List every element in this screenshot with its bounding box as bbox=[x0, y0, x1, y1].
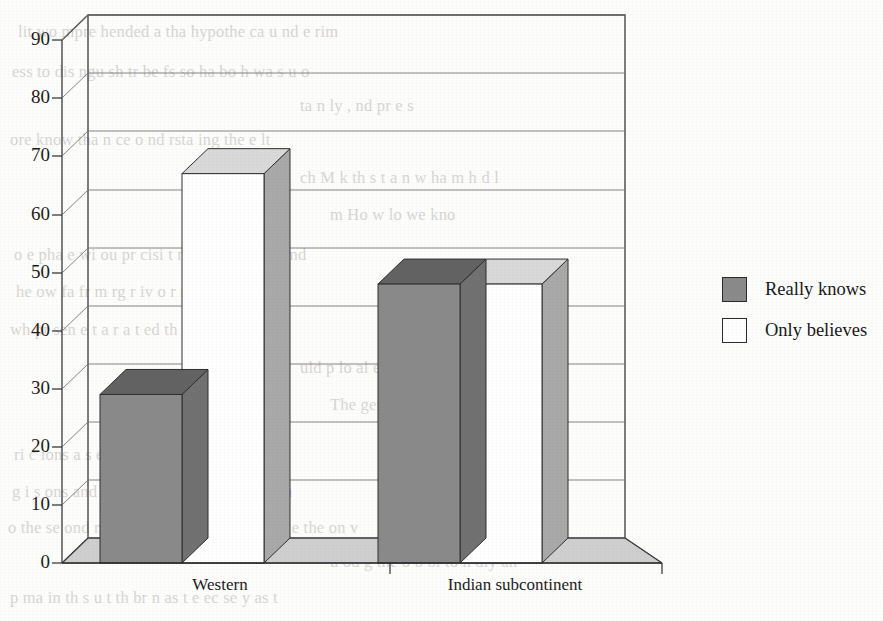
chart-legend: Really knows Only believes bbox=[722, 277, 867, 359]
page: lit wo mpre hended a tha hypothe ca u nd… bbox=[0, 0, 883, 621]
bar-western-really-knows-side-face bbox=[182, 369, 208, 563]
ytick-label-70: 70 bbox=[6, 144, 50, 166]
legend-label-really-knows: Really knows bbox=[765, 279, 866, 300]
legend-swatch-really-knows bbox=[722, 277, 747, 302]
xtick-label-indian-subcontinent: Indian subcontinent bbox=[400, 575, 630, 595]
gridline-depth-40 bbox=[62, 306, 88, 331]
gridline-depth-90 bbox=[62, 15, 88, 40]
bar-indian-subcontinent-only-believes-side-face bbox=[542, 259, 568, 563]
ytick-label-80: 80 bbox=[6, 86, 50, 108]
gridline-depth-30 bbox=[62, 364, 88, 389]
ytick-label-60: 60 bbox=[6, 203, 50, 225]
legend-label-only-believes: Only believes bbox=[765, 320, 867, 341]
ytick-label-0: 0 bbox=[6, 551, 50, 573]
ytick-label-50: 50 bbox=[6, 261, 50, 283]
bar-western-really-knows-front-face bbox=[100, 394, 182, 563]
legend-swatch-only-believes bbox=[722, 318, 747, 343]
ytick-label-20: 20 bbox=[6, 435, 50, 457]
bar-group bbox=[100, 149, 568, 563]
gridline-depth-50 bbox=[62, 248, 88, 273]
bar-western-only-believes-side-face bbox=[264, 149, 290, 563]
bar-indian-subcontinent-really-knows-group bbox=[378, 259, 486, 563]
gridline-depth-10 bbox=[62, 480, 88, 505]
gridline-depth-80 bbox=[62, 73, 88, 98]
gridline-depth-70 bbox=[62, 131, 88, 156]
xtick-label-western: Western bbox=[150, 575, 290, 595]
ytick-label-90: 90 bbox=[6, 28, 50, 50]
gridline-depth-60 bbox=[62, 190, 88, 215]
legend-item-really-knows: Really knows bbox=[722, 277, 867, 302]
legend-item-only-believes: Only believes bbox=[722, 318, 867, 343]
ytick-label-30: 30 bbox=[6, 377, 50, 399]
gridline-depth-20 bbox=[62, 422, 88, 447]
bar-indian-subcontinent-really-knows-side-face bbox=[460, 259, 486, 563]
bar-western-really-knows-group bbox=[100, 369, 208, 563]
bar-indian-subcontinent-really-knows-front-face bbox=[378, 284, 460, 563]
ytick-label-40: 40 bbox=[6, 319, 50, 341]
ytick-label-10: 10 bbox=[6, 493, 50, 515]
